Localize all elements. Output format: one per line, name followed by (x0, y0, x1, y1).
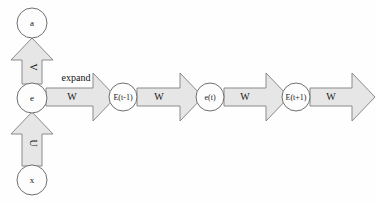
vertical-arrow-e-to-a-shape (11, 38, 53, 84)
horizontal-arrow-w1-label: W (67, 91, 77, 102)
node-e-t-minus-1: E(t-1) (109, 83, 137, 111)
horizontal-arrow-w2: W (137, 73, 203, 121)
diagram-canvas: V U W expand W W W (0, 0, 376, 204)
horizontal-arrow-w2-label: W (154, 91, 164, 102)
horizontal-arrow-w4-shape (310, 73, 375, 121)
node-e-label: e (30, 93, 34, 103)
diagram-svg: V U W expand W W W (0, 0, 376, 204)
node-e-t-label: e(t) (204, 93, 215, 102)
vertical-arrow-x-to-e-label: U (28, 139, 39, 147)
vertical-arrow-x-to-e: U (11, 112, 53, 166)
node-x-label: x (30, 175, 35, 185)
node-a: a (17, 8, 47, 38)
horizontal-arrow-w3-label: W (240, 91, 250, 102)
horizontal-arrow-w3-shape (224, 73, 289, 121)
node-a-label: a (30, 18, 34, 28)
vertical-arrow-e-to-a: V (11, 38, 53, 84)
node-e-t-plus-1-label: E(t+1) (286, 93, 307, 102)
expand-note: expand (62, 72, 91, 83)
node-e-t-minus-1-label: E(t-1) (113, 93, 132, 102)
horizontal-arrow-w4-label: W (326, 91, 336, 102)
node-e-t-plus-1: E(t+1) (282, 83, 310, 111)
node-e: e (17, 83, 47, 113)
node-e-t: e(t) (196, 83, 224, 111)
node-x: x (17, 165, 47, 195)
horizontal-arrow-w4: W (310, 73, 375, 121)
vertical-arrow-e-to-a-label: V (28, 63, 39, 71)
horizontal-arrow-w3: W (224, 73, 289, 121)
horizontal-arrow-w2-shape (137, 73, 203, 121)
